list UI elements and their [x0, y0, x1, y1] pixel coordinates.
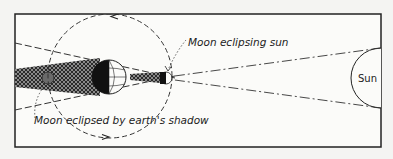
moon-new — [160, 72, 172, 84]
label-moon-eclipsed: Moon eclipsed by earth's shadow — [34, 114, 209, 126]
eclipse-diagram: Moon eclipsing sun Moon eclipsed by eart… — [0, 0, 393, 159]
earth — [92, 60, 126, 94]
label-moon-eclipsing-sun: Moon eclipsing sun — [188, 36, 288, 48]
label-sun: Sun — [358, 73, 377, 84]
